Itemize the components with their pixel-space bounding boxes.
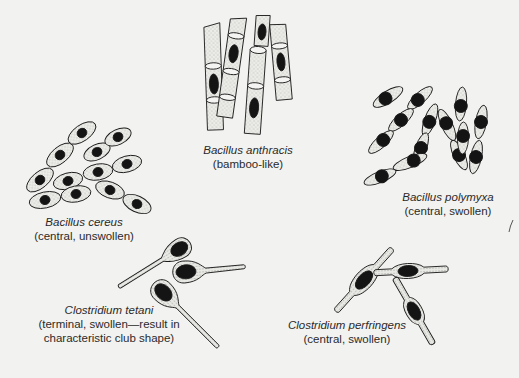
species-name: Bacillus cereus — [14, 215, 154, 229]
spore-description: (bamboo-like) — [192, 157, 304, 171]
spore-description: (central, unswollen) — [14, 229, 154, 243]
spore-description: (terminal, swollen—result in — [4, 317, 214, 331]
species-name: Clostridium perfringens — [272, 318, 422, 332]
spore-description: (central, swollen) — [386, 204, 510, 218]
species-name: Bacillus anthracis — [192, 143, 304, 157]
stray-mark — [509, 220, 513, 232]
species-name: Bacillus polymyxa — [386, 190, 510, 204]
label-bacillus-polymyxa: Bacillus polymyxa (central, swollen) — [386, 190, 510, 218]
label-clostridium-tetani: Clostridium tetani (terminal, swollen—re… — [4, 303, 214, 345]
bacillus-cereus-illustration — [23, 117, 154, 217]
bacillus-anthracis-illustration — [204, 15, 292, 135]
spore-description-line2: characteristic club shape) — [4, 331, 214, 345]
bacillus-polymyxa-illustration — [362, 82, 491, 189]
label-bacillus-cereus: Bacillus cereus (central, unswollen) — [14, 215, 154, 243]
species-name: Clostridium tetani — [4, 303, 214, 317]
label-bacillus-anthracis: Bacillus anthracis (bamboo-like) — [192, 143, 304, 171]
spore-description: (central, swollen) — [272, 332, 422, 346]
label-clostridium-perfringens: Clostridium perfringens (central, swolle… — [272, 318, 422, 346]
